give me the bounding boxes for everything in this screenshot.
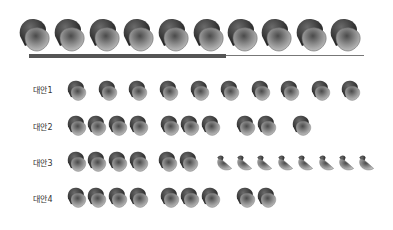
shape-icon — [107, 150, 128, 172]
large-shape-icon — [156, 16, 190, 52]
shape-icon — [66, 150, 87, 172]
large-shape-icon — [294, 16, 328, 52]
large-shape-icon — [52, 16, 86, 52]
shape-icon — [256, 114, 277, 136]
shape-icon — [256, 186, 277, 208]
half-shape-icon — [276, 154, 295, 172]
large-shape-icon — [191, 16, 225, 52]
half-shape-icon — [317, 154, 336, 172]
shape-icon — [66, 186, 87, 208]
half-shape-icon — [337, 154, 356, 172]
shape-icon — [86, 150, 107, 172]
shape-icon — [235, 186, 256, 208]
large-shape-icon — [225, 16, 259, 52]
shape-icon — [179, 114, 200, 136]
half-shape-icon — [255, 154, 274, 172]
alternative-label: 대안4 — [33, 193, 53, 204]
shape-icon — [340, 79, 361, 101]
alternative-label: 대안2 — [33, 121, 53, 132]
half-shape-icon — [296, 154, 315, 172]
shape-icon — [158, 79, 179, 101]
shape-icon — [128, 150, 149, 172]
large-shape-icon — [328, 16, 362, 52]
shape-icon — [200, 114, 221, 136]
shape-icon — [219, 79, 240, 101]
half-shape-icon — [357, 154, 376, 172]
large-shape-icon — [121, 16, 155, 52]
shape-icon — [159, 114, 180, 136]
shape-icon — [128, 186, 149, 208]
shape-icon — [97, 79, 118, 101]
shape-icon — [128, 114, 149, 136]
shape-icon — [250, 79, 271, 101]
shape-icon — [279, 79, 300, 101]
half-shape-icon — [235, 154, 254, 172]
shape-icon — [107, 114, 128, 136]
alternative-label: 대안3 — [33, 157, 53, 168]
shape-icon — [179, 186, 200, 208]
progress-bar-filled — [29, 54, 226, 58]
shape-icon — [310, 79, 331, 101]
shape-icon — [66, 114, 87, 136]
half-shape-icon — [215, 154, 234, 172]
shape-icon — [200, 186, 221, 208]
shape-icon — [189, 79, 210, 101]
alternative-label: 대안1 — [33, 84, 53, 95]
shape-icon — [235, 114, 256, 136]
shape-icon — [291, 114, 312, 136]
shape-icon — [86, 114, 107, 136]
large-shape-icon — [259, 16, 293, 52]
large-shape-icon — [17, 16, 51, 52]
large-shape-icon — [87, 16, 121, 52]
shape-icon — [107, 186, 128, 208]
shape-icon — [159, 186, 180, 208]
shape-icon — [178, 150, 199, 172]
shape-icon — [157, 150, 178, 172]
shape-icon — [127, 79, 148, 101]
shape-icon — [86, 186, 107, 208]
progress-bar-track — [226, 55, 364, 56]
shape-icon — [66, 79, 87, 101]
